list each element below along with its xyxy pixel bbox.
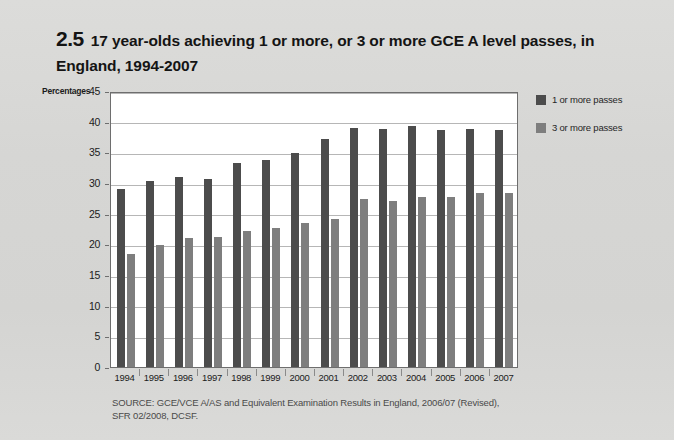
source-line-1: SOURCE: GCE/VCE A/AS and Equivalent Exam… (112, 396, 582, 409)
bar (389, 201, 397, 367)
legend-item-1-or-more: 1 or more passes (536, 94, 668, 105)
bar (379, 129, 387, 367)
y-tick-mark (105, 153, 109, 154)
y-tick-label: 20 (74, 238, 100, 250)
bar (117, 189, 125, 367)
x-tick-separator (139, 369, 140, 376)
y-tick-label: 30 (74, 177, 100, 189)
bar (437, 130, 445, 367)
y-tick-label: 25 (74, 208, 100, 220)
bar (447, 197, 455, 367)
x-tick-separator (489, 369, 490, 376)
x-tick-separator (460, 369, 461, 376)
y-tick-mark (105, 123, 109, 124)
x-tick-separator (227, 369, 228, 376)
y-tick-mark (105, 337, 109, 338)
bar (466, 129, 474, 367)
plot-area (110, 92, 518, 368)
y-tick-label: 35 (74, 146, 100, 158)
y-tick-label: 45 (74, 85, 100, 97)
bar (495, 130, 503, 367)
bar (146, 181, 154, 367)
bar (243, 231, 251, 367)
bar (476, 193, 484, 367)
chart-legend: 1 or more passes 3 or more passes (536, 94, 668, 150)
x-tick-separator (197, 369, 198, 376)
bar (321, 139, 329, 367)
y-tick-mark (105, 245, 109, 246)
y-tick-mark (105, 92, 109, 93)
bar (291, 153, 299, 367)
legend-item-3-or-more: 3 or more passes (536, 122, 668, 133)
bar (505, 193, 513, 367)
bar (204, 179, 212, 367)
y-tick-mark (105, 215, 109, 216)
y-tick-mark (105, 368, 109, 369)
y-tick-mark (105, 276, 109, 277)
source-note: SOURCE: GCE/VCE A/AS and Equivalent Exam… (112, 396, 582, 422)
y-tick-label: 40 (74, 116, 100, 128)
x-tick-separator (168, 369, 169, 376)
y-tick-mark (105, 184, 109, 185)
bar (408, 126, 416, 367)
y-tick-label: 0 (74, 361, 100, 373)
bar (127, 254, 135, 367)
bar (175, 177, 183, 367)
x-tick-separator (314, 369, 315, 376)
bar (272, 228, 280, 367)
bar (262, 160, 270, 367)
x-tick-label: 2007 (486, 372, 520, 383)
legend-label: 1 or more passes (552, 94, 622, 105)
y-tick-label: 5 (74, 330, 100, 342)
x-tick-separator (431, 369, 432, 376)
bar (350, 128, 358, 367)
y-tick-mark (105, 307, 109, 308)
legend-label: 3 or more passes (552, 122, 622, 133)
y-tick-label: 10 (74, 300, 100, 312)
x-tick-separator (285, 369, 286, 376)
bar-series-container (111, 93, 517, 367)
bar (331, 219, 339, 367)
legend-swatch-icon (536, 95, 546, 105)
x-tick-separator (372, 369, 373, 376)
bar (214, 237, 222, 367)
x-tick-separator (343, 369, 344, 376)
x-tick-separator (256, 369, 257, 376)
legend-swatch-icon (536, 123, 546, 133)
source-line-2: SFR 02/2008, DCSF. (112, 409, 582, 422)
bar (233, 163, 241, 367)
bar (301, 223, 309, 367)
page-background: 2.517 year-olds achieving 1 or more, or … (0, 0, 674, 440)
x-tick-separator (401, 369, 402, 376)
bar (185, 238, 193, 367)
bar-chart: Percentages 051015202530354045 199419951… (0, 0, 674, 440)
bar (156, 245, 164, 367)
y-tick-label: 15 (74, 269, 100, 281)
bar (418, 197, 426, 367)
bar (360, 199, 368, 367)
